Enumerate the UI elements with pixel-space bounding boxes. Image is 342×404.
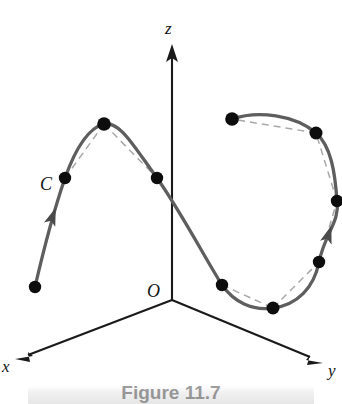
partition-node bbox=[225, 112, 239, 126]
inscribed-polygon-chords bbox=[65, 119, 337, 308]
partition-node bbox=[331, 195, 342, 207]
figure-caption-strip: Figure 11.7 bbox=[28, 386, 314, 404]
curve-label-C: C bbox=[40, 174, 53, 194]
chord-segment bbox=[65, 124, 104, 178]
partition-nodes-group bbox=[29, 112, 342, 314]
figure-container: z x y O C Figure 11.7 bbox=[0, 0, 342, 404]
partition-node bbox=[29, 281, 41, 293]
figure-caption: Figure 11.7 bbox=[28, 386, 314, 404]
x-axis-line bbox=[28, 300, 172, 355]
partition-node bbox=[313, 256, 325, 268]
space-curve-figure: z x y O C bbox=[0, 0, 342, 404]
space-curve-path bbox=[35, 115, 337, 309]
y-axis-line bbox=[172, 300, 310, 357]
partition-node bbox=[216, 279, 228, 291]
axes-group bbox=[15, 44, 323, 365]
chord-segment bbox=[104, 124, 157, 178]
partition-node bbox=[310, 127, 323, 140]
partition-node bbox=[267, 302, 280, 315]
partition-node bbox=[151, 172, 163, 184]
origin-label: O bbox=[147, 281, 160, 301]
y-axis-label: y bbox=[326, 361, 336, 380]
z-axis-label: z bbox=[164, 19, 172, 38]
partition-node bbox=[97, 117, 111, 131]
x-axis-label: x bbox=[1, 357, 10, 376]
partition-node bbox=[59, 172, 71, 184]
